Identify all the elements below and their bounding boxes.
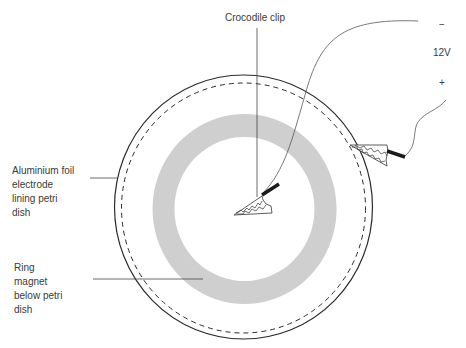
aluminium-foil-label-line-2: electrode xyxy=(12,178,92,192)
ring-magnet-label-line-3: below petri xyxy=(14,289,94,303)
center-clip-handle xyxy=(262,184,279,195)
ring-magnet-label-line-2: magnet xyxy=(14,275,94,289)
negative-terminal-label: − xyxy=(439,18,445,32)
aluminium-foil-label-line-3: lining petri xyxy=(12,192,92,206)
electromagnetic-petri-dish-diagram: Crocodile clip − 12V + Aluminium foil el… xyxy=(0,0,466,348)
aluminium-foil-label-line-4: dish xyxy=(12,206,92,220)
edge-crocodile-clip xyxy=(350,145,405,166)
ring-magnet-label-line-1: Ring xyxy=(14,261,94,275)
aluminium-foil-label: Aluminium foil electrode lining petri di… xyxy=(12,164,92,220)
positive-wire xyxy=(405,100,446,156)
negative-wire xyxy=(263,21,418,193)
ring-magnet-label: Ring magnet below petri dish xyxy=(14,261,94,317)
center-crocodile-clip xyxy=(234,184,279,215)
ring-magnet-label-line-4: dish xyxy=(14,303,94,317)
crocodile-clip-label: Crocodile clip xyxy=(225,11,285,25)
edge-clip-handle xyxy=(387,151,405,157)
voltage-label: 12V xyxy=(433,46,451,60)
aluminium-foil-label-line-1: Aluminium foil xyxy=(12,164,92,178)
positive-terminal-label: + xyxy=(439,76,445,90)
